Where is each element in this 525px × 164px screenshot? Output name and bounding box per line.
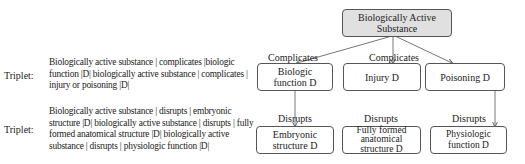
- node-biologic-function: Biologic function D: [257, 63, 333, 91]
- edge-label-disrupts-2: Disrupts: [364, 113, 398, 125]
- node-injury: Injury D: [343, 63, 421, 91]
- edge-label-disrupts-3: Disrupts: [452, 113, 486, 125]
- node-fully-formed-anatomical-structure: Fully formed anatomical structure D: [342, 126, 421, 154]
- node-embryonic-structure: Embryonic structure D: [256, 126, 334, 154]
- node-biologically-active-substance: Biologically Active Substance: [342, 9, 452, 37]
- edge-label-disrupts-1: Disrupts: [278, 113, 312, 125]
- node-physiologic-function: Physiologic function D: [430, 126, 507, 154]
- node-poisoning: Poisoning D: [425, 63, 505, 91]
